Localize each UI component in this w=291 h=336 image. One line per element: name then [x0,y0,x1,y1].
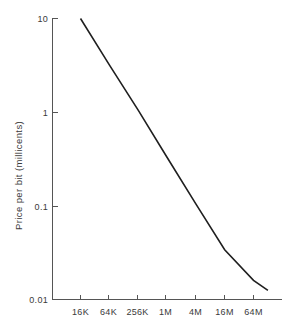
chart-container: 10 1 0.1 0.01 16K 64K 256K 1M 4M 16M 64M… [0,0,291,336]
x-tick-label: 16K [72,307,89,317]
data-series-line [81,19,268,291]
x-tick-label: 4M [189,307,202,317]
y-tick-label: 1 [43,108,48,118]
y-tick-label: 0.1 [35,202,48,212]
log-log-line-chart: 10 1 0.1 0.01 16K 64K 256K 1M 4M 16M 64M… [0,0,291,336]
y-axis-title: Price per bit (millicents) [13,121,24,230]
y-tick-label: 0.01 [29,295,48,305]
y-tick-label: 10 [37,14,48,24]
x-tick-label: 256K [126,307,148,317]
x-tick-label: 16M [215,307,233,317]
x-tick-label: 64M [244,307,262,317]
y-axis-ticks [53,19,58,300]
x-tick-label: 1M [159,307,172,317]
x-axis-ticks [81,295,254,300]
x-tick-label: 64K [100,307,117,317]
